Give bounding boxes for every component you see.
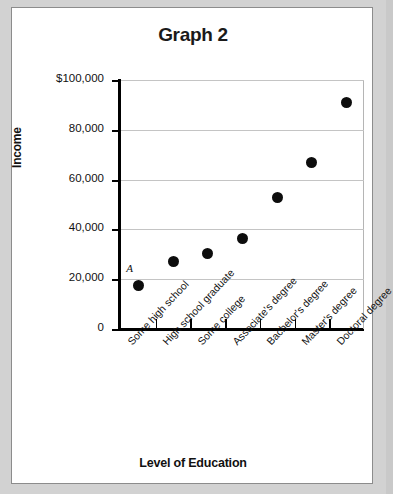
data-point (133, 280, 144, 291)
gridline (121, 180, 364, 181)
y-axis-tick (112, 130, 120, 132)
gridline (121, 279, 364, 280)
y-axis-tick-label: 20,000 (14, 271, 104, 283)
x-axis-title: Level of Education (12, 456, 374, 470)
y-axis-tick (112, 329, 120, 331)
data-point (168, 256, 179, 267)
y-axis-tick (112, 229, 120, 231)
point-annotation-a: A (126, 262, 133, 274)
y-axis-tick-label: 60,000 (14, 172, 104, 184)
data-point (202, 248, 213, 259)
y-axis-tick-label: 0 (14, 321, 104, 333)
chart-title: Graph 2 (12, 24, 374, 46)
y-axis-tick-label: 80,000 (14, 122, 104, 134)
y-axis-tick (112, 80, 120, 82)
data-point (341, 97, 352, 108)
y-axis-tick-label: $100,000 (14, 72, 104, 84)
y-axis-tick (112, 279, 120, 281)
chart-panel: Graph 2 Income Level of Education $100,0… (11, 7, 373, 484)
gridline (121, 229, 364, 230)
y-axis-tick-label: 40,000 (14, 221, 104, 233)
data-point (272, 192, 283, 203)
data-point (237, 233, 248, 244)
plot-right-border (363, 80, 364, 329)
y-axis-tick (112, 180, 120, 182)
plot-area: A (121, 80, 364, 329)
gridline (121, 80, 364, 81)
data-point (306, 157, 317, 168)
gridline (121, 130, 364, 131)
